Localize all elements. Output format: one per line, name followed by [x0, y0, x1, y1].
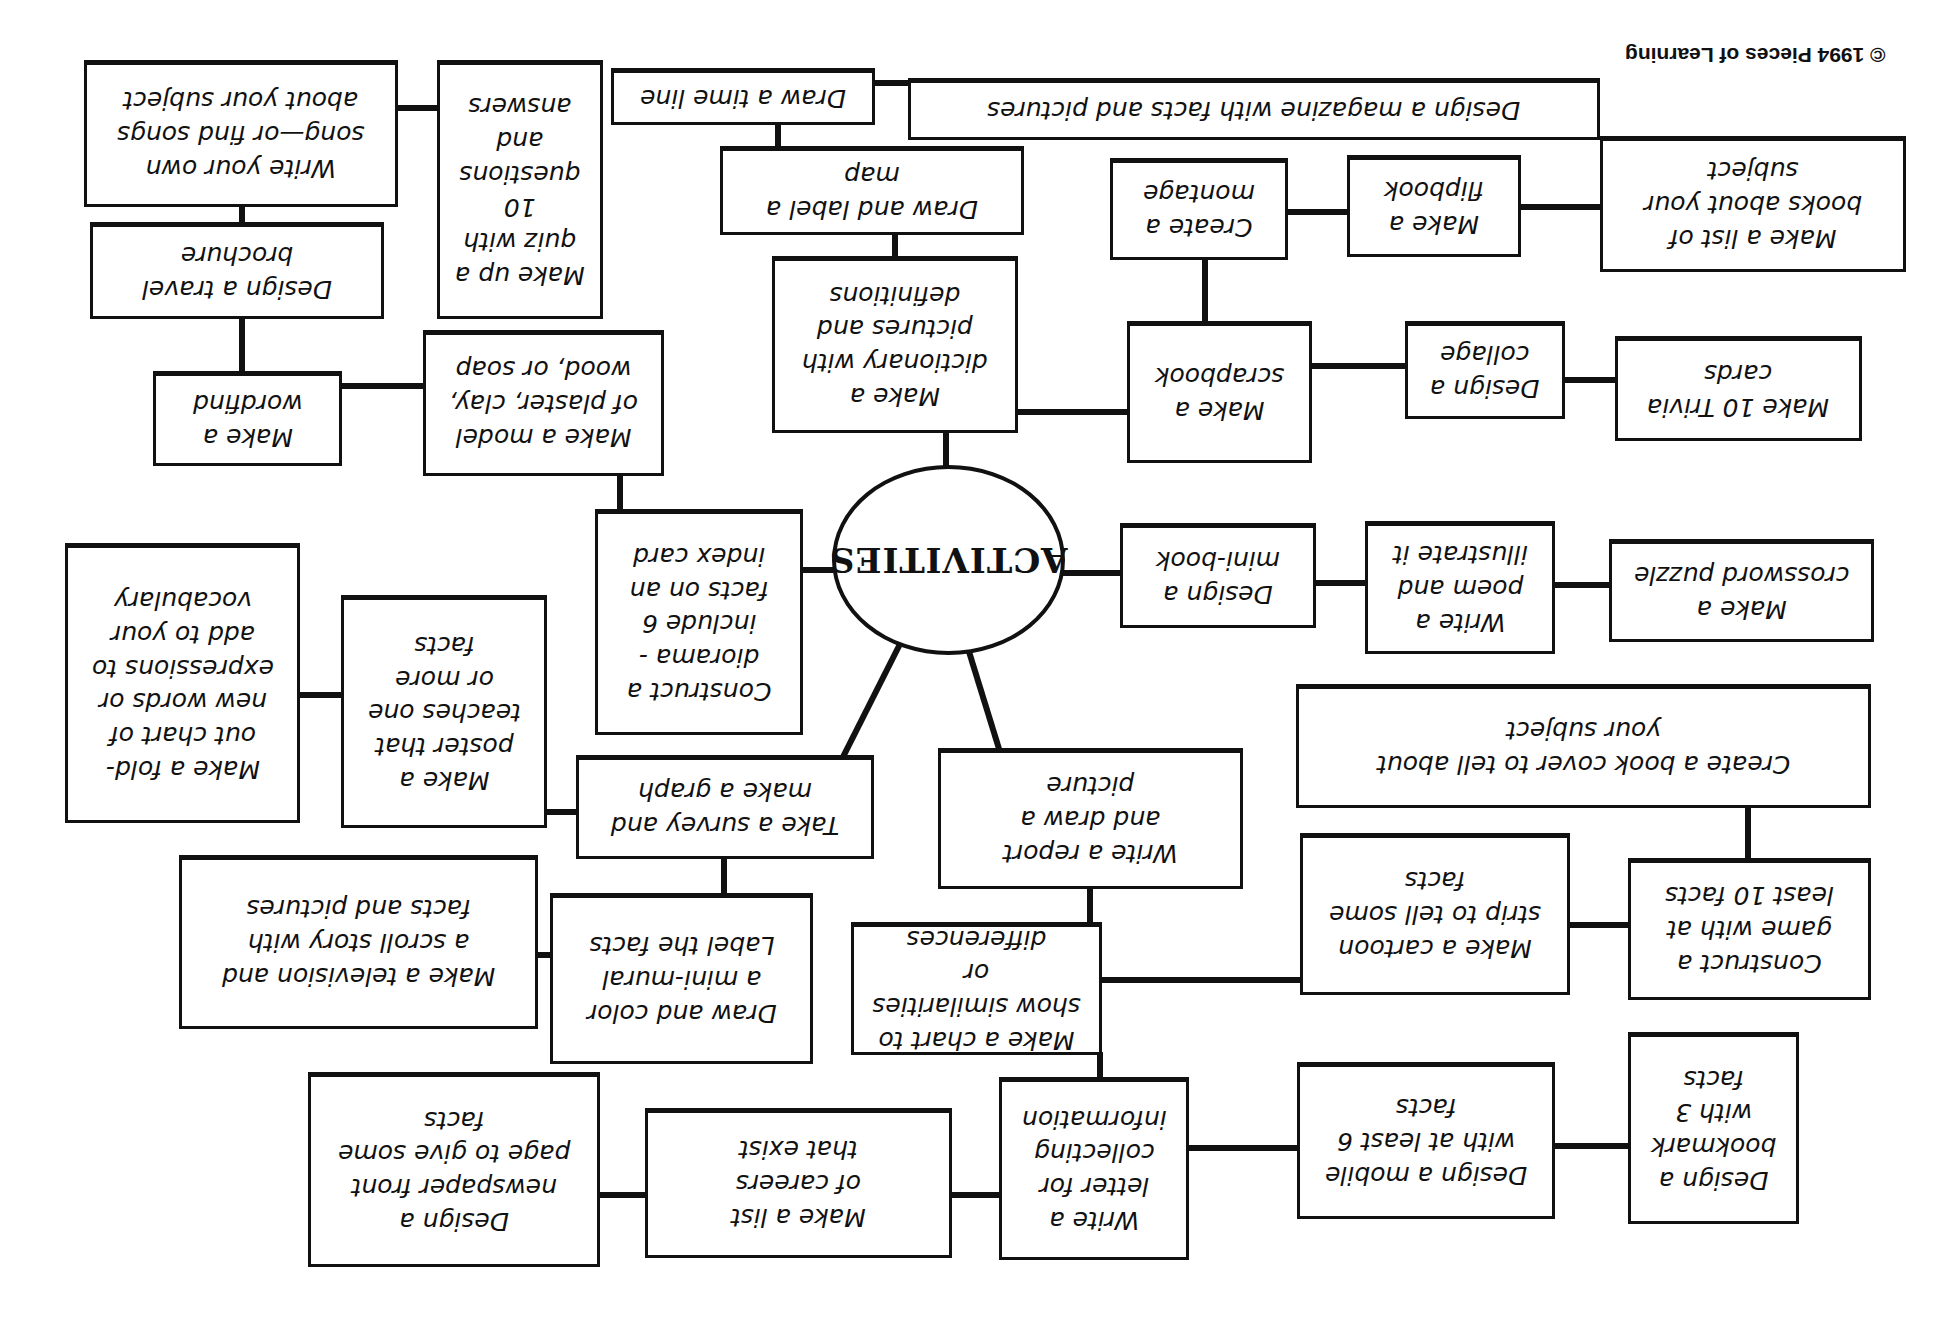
center-node-activities: ACTIVITIES	[832, 465, 1065, 655]
node-design-bookmark: Design a bookmark with 3 facts	[1628, 1032, 1799, 1224]
node-label: Make up a quiz with 10 questions and ans…	[445, 85, 595, 296]
copyright-notice: © 1994 Pieces of Learning	[1590, 40, 1920, 70]
node-television-scroll: Make a television and a scroll story wit…	[179, 855, 538, 1029]
node-label: Make a flipbook	[1374, 169, 1494, 245]
node-label: Design a bookmark with 3 facts	[1641, 1058, 1786, 1201]
node-label-map: Draw and label a map	[720, 146, 1024, 235]
node-label: Draw and color a mini-mural Label the fa…	[577, 925, 787, 1034]
node-label: Write a poem and illustrate it	[1383, 534, 1538, 643]
node-design-magazine: Design a magazine with facts and picture…	[908, 78, 1600, 140]
copyright-text: © 1994 Pieces of Learning	[1625, 43, 1886, 67]
node-label: Make a chart to show similarities or dif…	[854, 918, 1099, 1061]
activities-web-diagram: © 1994 Pieces of Learning Write your own…	[0, 0, 1941, 1332]
node-write-poem: Write a poem and illustrate it	[1365, 521, 1555, 654]
node-make-flipbook: Make a flipbook	[1347, 155, 1521, 257]
spacer-7	[1173, 1067, 1174, 1068]
node-design-mini-book: Design a mini-book	[1120, 523, 1316, 628]
node-time-line: Draw a time line	[611, 68, 875, 125]
node-label: Make 10 Trivia cards	[1637, 352, 1839, 428]
node-label: Design a collage	[1420, 333, 1550, 409]
node-label: Make a fold- out chart of new words or e…	[82, 579, 284, 790]
node-label: Make a television and a scroll story wit…	[212, 888, 505, 997]
node-label: Write a report and draw a picture	[993, 765, 1188, 874]
node-label: Make a dictionary with pictures and defi…	[792, 274, 998, 417]
node-fold-out-chart: Make a fold- out chart of new words or e…	[65, 543, 300, 823]
node-make-scrapbook: Make a scrapbook	[1127, 321, 1312, 463]
node-label: Write a letter for collecting informatio…	[1012, 1098, 1177, 1241]
node-label: Construct a diorama - include 6 facts on…	[617, 535, 781, 712]
node-label: Make a cartoon strip to tell some facts	[1319, 860, 1551, 969]
node-design-collage: Design a collage	[1405, 321, 1565, 419]
node-label: Take a survey and make a graph	[601, 770, 849, 846]
node-make-quiz: Make up a quiz with 10 questions and ans…	[437, 60, 603, 319]
node-label: Make a poster that teaches one or more f…	[358, 624, 531, 801]
node-label: Design a newspaper front page to give so…	[328, 1099, 580, 1242]
node-label: Make a model of plaster, clay, wood, or …	[439, 349, 648, 458]
node-construct-game: Construct a game with at least 10 facts	[1628, 858, 1871, 1000]
node-label: Make a wordfind	[183, 382, 313, 458]
node-label: Write your own song—or find songs about …	[107, 80, 374, 189]
node-mini-mural: Draw and color a mini-mural Label the fa…	[550, 893, 813, 1064]
node-make-model: Make a model of plaster, clay, wood, or …	[423, 330, 664, 476]
node-crossword-puzzle: Make a crossword puzzle	[1609, 539, 1874, 642]
node-write-song: Write your own song—or find songs about …	[84, 60, 398, 207]
node-label: Construct a game with at least 10 facts	[1655, 875, 1844, 984]
node-newspaper-front-page: Design a newspaper front page to give so…	[308, 1072, 600, 1267]
node-make-dictionary: Make a dictionary with pictures and defi…	[772, 256, 1018, 433]
node-label: Design a magazine with facts and picture…	[977, 89, 1530, 131]
node-book-cover: Create a book cover to tell about your s…	[1296, 684, 1871, 808]
center-title: ACTIVITIES	[829, 540, 1068, 580]
node-label: Create a book cover to tell about your s…	[1367, 709, 1800, 785]
node-label: Draw a time line	[630, 77, 856, 119]
node-label: Create a montage	[1133, 172, 1265, 248]
node-label: Design a mobile with at least 6 facts	[1315, 1087, 1537, 1196]
node-label: Draw and label a map	[756, 154, 988, 230]
node-design-mobile: Design a mobile with at least 6 facts	[1297, 1062, 1555, 1219]
node-label: Make a list of careers that exist	[721, 1129, 876, 1238]
node-write-report: Write a report and draw a picture	[938, 748, 1243, 889]
node-trivia-cards: Make 10 Trivia cards	[1615, 336, 1862, 441]
node-label: Design a travel brochure	[132, 234, 342, 310]
node-travel-brochure: Design a travel brochure	[90, 222, 384, 319]
node-create-montage: Create a montage	[1110, 158, 1288, 260]
node-list-careers: Make a list of careers that exist	[645, 1108, 952, 1258]
node-survey-graph: Take a survey and make a graph	[576, 755, 874, 859]
node-label: Make a scrapbook	[1145, 355, 1294, 431]
node-write-letter: Write a letter for collecting informatio…	[999, 1077, 1189, 1260]
node-label: Make a crossword puzzle	[1624, 554, 1860, 630]
node-comparison-chart: Make a chart to show similarities or dif…	[851, 922, 1102, 1055]
node-list-books: Make a list of books about your subject	[1600, 136, 1906, 272]
node-label: Make a list of books about your subject	[1634, 150, 1872, 259]
node-construct-diorama: Construct a diorama - include 6 facts on…	[595, 509, 803, 735]
node-make-wordfind: Make a wordfind	[153, 371, 342, 466]
node-cartoon-strip: Make a cartoon strip to tell some facts	[1300, 833, 1570, 995]
node-label: Design a mini-book	[1146, 539, 1290, 615]
node-make-poster: Make a poster that teaches one or more f…	[341, 595, 547, 828]
